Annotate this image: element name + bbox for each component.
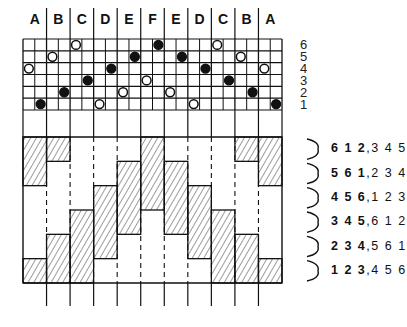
column-header: D (195, 11, 205, 27)
sequence-regular: 4 5 6 (371, 263, 406, 277)
hatched-band (70, 210, 94, 283)
hatched-band (47, 234, 71, 283)
hatched-band (117, 161, 141, 234)
sequence-bold: 2 3 4 (331, 239, 366, 253)
hatched-band (47, 137, 71, 161)
open-dot-icon (72, 41, 81, 50)
column-header: E (124, 11, 133, 27)
hatched-regions (23, 137, 282, 283)
column-header: E (171, 11, 180, 27)
column-header: F (148, 11, 157, 27)
column-header: C (77, 11, 87, 27)
filled-dot-icon (130, 52, 139, 61)
sequence-bold: 5 6 1 (331, 166, 366, 180)
column-header: A (30, 11, 40, 27)
hatched-band (94, 186, 118, 259)
filled-dot-icon (36, 100, 45, 109)
hatched-band (164, 161, 188, 234)
hatched-band (211, 210, 235, 283)
sequence-label: 4 5 6,1 2 3 (331, 190, 407, 204)
filled-dot-icon (107, 64, 116, 73)
sequence-bold: 1 2 3 (331, 263, 366, 277)
sequence-label: 3 4 5,6 1 2 (331, 214, 407, 228)
open-dot-icon (48, 52, 57, 61)
sequence-regular: 3 4 5 (371, 141, 406, 155)
sequence-label: 1 2 3,4 5 6 (331, 263, 407, 277)
filled-dot-icon (60, 88, 69, 97)
open-dot-icon (260, 64, 269, 73)
open-dot-icon (166, 88, 175, 97)
open-dot-icon (213, 41, 222, 50)
column-header: B (242, 11, 252, 27)
column-headers: ABCDEFEDCBA (30, 11, 276, 27)
sequence-regular: 2 3 4 (371, 166, 406, 180)
filled-dot-icon (248, 88, 257, 97)
filled-dot-icon (201, 64, 210, 73)
sequence-label: 2 3 4,5 6 1 (331, 239, 407, 253)
brace-icon (307, 139, 318, 281)
brace-group (307, 139, 318, 281)
column-header: A (265, 11, 275, 27)
sequence-bold: 6 1 2 (331, 141, 366, 155)
sequence-label: 6 1 2,3 4 5 (331, 141, 407, 155)
hatched-band (235, 137, 259, 161)
hatched-band (141, 137, 165, 210)
open-dot-icon (95, 100, 104, 109)
open-dot-icon (142, 76, 151, 85)
filled-dot-icon (83, 76, 92, 85)
open-dot-icon (236, 52, 245, 61)
hatched-band (258, 137, 282, 186)
open-dot-icon (119, 88, 128, 97)
hatched-band (188, 186, 212, 259)
hatched-band (23, 259, 47, 283)
open-dot-icon (189, 100, 198, 109)
column-header: D (100, 11, 110, 27)
sequence-regular: 6 1 2 (371, 214, 406, 228)
sequence-regular: 5 6 1 (371, 239, 406, 253)
hatched-band (258, 259, 282, 283)
filled-dot-icon (225, 76, 234, 85)
sequence-regular: 1 2 3 (371, 190, 406, 204)
column-header: C (218, 11, 228, 27)
hatched-band (235, 234, 259, 283)
filled-dot-icon (178, 52, 187, 61)
filled-dot-icon (154, 41, 163, 50)
open-dot-icon (24, 64, 33, 73)
hatched-band (23, 137, 47, 186)
sequence-label: 5 6 1,2 3 4 (331, 166, 407, 180)
row-number: 1 (300, 97, 307, 112)
column-header: B (53, 11, 63, 27)
filled-dot-icon (272, 100, 281, 109)
sequence-bold: 3 4 5 (331, 214, 366, 228)
sequence-bold: 4 5 6 (331, 190, 366, 204)
row-numbers: 654321 (300, 37, 307, 111)
